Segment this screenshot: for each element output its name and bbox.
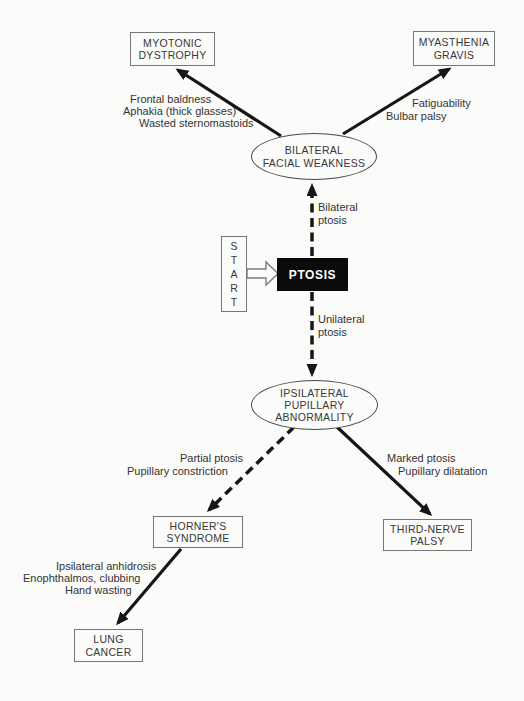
node-start: S T A R T	[221, 236, 247, 312]
node-lung-cancer-label: LUNG CANCER	[85, 633, 131, 658]
edge-label-frontal-baldness: Frontal baldness	[130, 93, 211, 105]
edge-label-ipsilateral-anhidrosis: Ipsilateral anhidrosis	[56, 560, 156, 572]
edge-label-aphakia: Aphakia (thick glasses)	[123, 105, 236, 117]
node-myotonic-dystrophy: MYOTONIC DYSTROPHY	[130, 32, 215, 66]
edge-label-wasted-sternomastoids: Wasted sternomastoids	[139, 117, 254, 129]
edge-label-bulbar-palsy: Bulbar palsy	[386, 110, 447, 122]
node-bilateral-facial-weakness: BILATERAL FACIAL WEAKNESS	[251, 133, 377, 180]
node-bilateral-facial-weakness-label: BILATERAL FACIAL WEAKNESS	[263, 144, 366, 169]
node-myasthenia-gravis: MYASTHENIA GRAVIS	[413, 31, 495, 66]
edge-label-pupillary-constriction: Pupillary constriction	[127, 465, 228, 477]
edge-label-fatiguability: Fatiguability	[412, 97, 471, 109]
node-myotonic-dystrophy-label: MYOTONIC DYSTROPHY	[138, 37, 206, 62]
ptosis-flowchart: MYOTONIC DYSTROPHY MYASTHENIA GRAVIS BIL…	[0, 0, 524, 701]
edge-label-bilateral-ptosis-word: ptosis	[318, 214, 347, 226]
edge-label-bilateral: Bilateral	[318, 201, 358, 213]
node-ptosis-label: PTOSIS	[289, 268, 336, 282]
edge-label-pupillary-dilatation: Pupillary dilatation	[398, 465, 487, 477]
node-horners-syndrome: HORNER'S SYNDROME	[153, 516, 243, 548]
node-start-label: S T A R T	[230, 239, 238, 309]
edge-label-hand-wasting: Hand wasting	[65, 584, 132, 596]
node-myasthenia-gravis-label: MYASTHENIA GRAVIS	[419, 36, 489, 61]
edge-label-unilateral-ptosis-word: ptosis	[318, 326, 347, 338]
node-ptosis: PTOSIS	[277, 258, 348, 291]
edge-label-partial-ptosis: Partial ptosis	[180, 452, 243, 464]
edge-label-marked-ptosis: Marked ptosis	[387, 452, 455, 464]
edge-label-enophthalmos-clubbing: Enophthalmos, clubbing	[23, 572, 140, 584]
edge-label-unilateral: Unilateral	[318, 313, 364, 325]
node-third-nerve-palsy-label: THIRD-NERVE PALSY	[390, 523, 465, 548]
node-lung-cancer: LUNG CANCER	[74, 629, 143, 662]
node-ipsilateral-pupillary-abnormality-label: IPSILATERAL PUPILLARY ABNORMALITY	[275, 387, 354, 423]
node-horners-syndrome-label: HORNER'S SYNDROME	[166, 520, 229, 545]
node-ipsilateral-pupillary-abnormality: IPSILATERAL PUPILLARY ABNORMALITY	[251, 380, 378, 430]
start-pointer-arrow	[247, 262, 278, 285]
node-third-nerve-palsy: THIRD-NERVE PALSY	[383, 519, 472, 551]
